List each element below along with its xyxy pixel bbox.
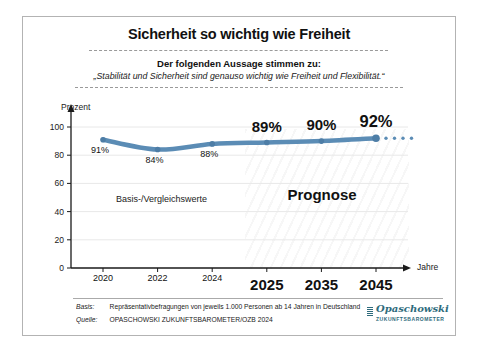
x-axis-title: Jahre (417, 262, 438, 272)
title-separator (89, 50, 388, 51)
footer: Basis: Repräsentativbefragungen von jewe… (76, 302, 360, 328)
quote-separator (75, 87, 403, 88)
chart-card: Sicherheit so wichtig wie Freiheit Der f… (22, 16, 456, 336)
logo-text: Opaschowski ZUKUNFTSBAROMETER (376, 304, 449, 322)
baseline-annotation: Basis-/Vergleichswerte (116, 194, 207, 204)
basis-text: Repräsentativbefragungen von jeweils 1.0… (110, 302, 361, 312)
page: Sicherheit so wichtig wie Freiheit Der f… (0, 0, 481, 359)
forecast-annotation: Prognose (242, 186, 402, 203)
footer-separator (73, 298, 443, 299)
chart-title: Sicherheit so wichtig wie Freiheit (23, 26, 455, 42)
logo-bars-icon (367, 307, 373, 316)
statement-quote: „Stabilität und Sicherheit sind genauso … (23, 71, 455, 81)
logo-subname: ZUKUNFTSBAROMETER (376, 316, 449, 322)
basis-row: Basis: Repräsentativbefragungen von jewe… (76, 302, 360, 312)
quelle-label: Quelle: (76, 315, 110, 325)
logo-name: Opaschowski (376, 304, 449, 314)
opaschowski-logo: Opaschowski ZUKUNFTSBAROMETER (367, 304, 449, 322)
quelle-row: Quelle: OPASCHOWSKI ZUKUNFTSBAROMETER/OZ… (76, 315, 360, 325)
basis-label: Basis: (76, 302, 110, 312)
chart-subtitle: Der folgenden Aussage stimmen zu: (23, 58, 455, 69)
quelle-text: OPASCHOWSKI ZUKUNFTSBAROMETER/OZB 2024 (110, 315, 273, 325)
y-axis-title: Prozent (61, 102, 90, 112)
